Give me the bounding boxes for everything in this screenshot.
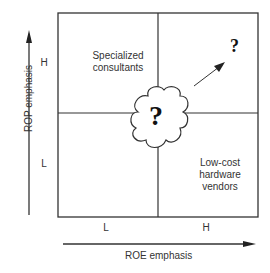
quadrant-top-left-line2: consultants bbox=[78, 62, 158, 74]
quadrant-top-left-line1: Specialized bbox=[78, 50, 158, 62]
quadrant-top-left-label: Specialized consultants bbox=[78, 50, 158, 74]
x-axis-label: ROE emphasis bbox=[125, 250, 205, 262]
cloud-question-mark: ? bbox=[149, 100, 163, 132]
y-tick-low: L bbox=[39, 158, 49, 170]
y-tick-high: H bbox=[39, 57, 49, 69]
quadrant-bottom-right-line1: Low-cost bbox=[185, 157, 255, 169]
quadrant-bottom-right-line2: hardware bbox=[185, 169, 255, 181]
quadrant-bottom-right-line3: vendors bbox=[185, 181, 255, 193]
x-tick-high: H bbox=[200, 222, 212, 234]
x-tick-low: L bbox=[100, 222, 112, 234]
trend-arrowhead-icon bbox=[214, 62, 225, 72]
y-axis-label: ROP emphasis bbox=[23, 59, 34, 139]
y-axis-arrowhead-icon bbox=[26, 30, 32, 43]
top-right-question-mark: ? bbox=[230, 36, 239, 57]
x-axis-arrowhead-icon bbox=[243, 241, 256, 247]
trend-arrow-line bbox=[194, 67, 219, 86]
quadrant-bottom-right-label: Low-cost hardware vendors bbox=[185, 157, 255, 193]
